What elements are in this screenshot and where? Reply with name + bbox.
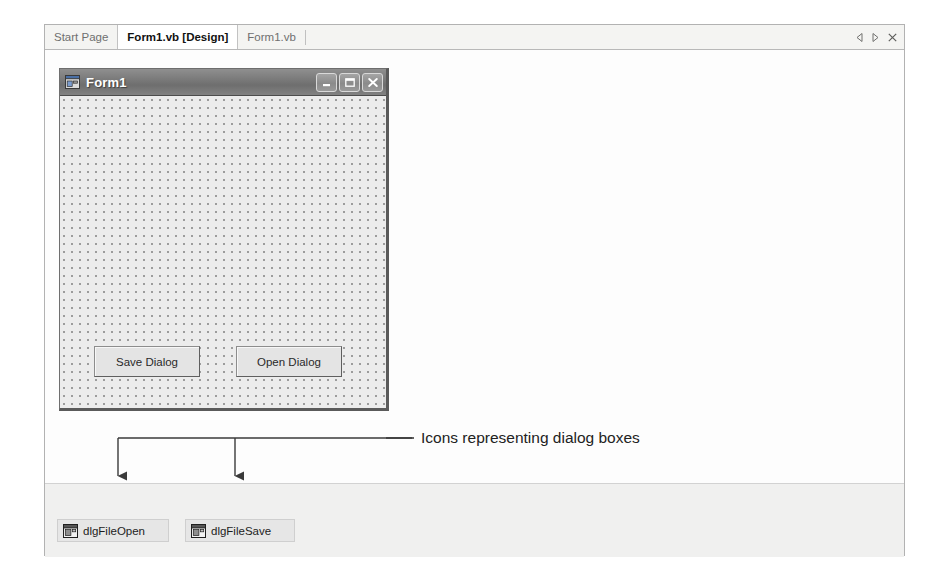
- tab-form1-design-label: Form1.vb [Design]: [127, 31, 228, 43]
- tab-form1-design[interactable]: Form1.vb [Design]: [117, 25, 238, 49]
- tab-strip-divider: [305, 30, 306, 45]
- chevron-left-icon[interactable]: [856, 33, 863, 42]
- tray-item-dlgfilesave-label: dlgFileSave: [211, 525, 271, 537]
- tab-form1-code[interactable]: Form1.vb: [238, 25, 305, 49]
- form-titlebar[interactable]: Form1: [60, 69, 386, 96]
- document-tab-strip: Start Page Form1.vb [Design] Form1.vb: [45, 25, 904, 50]
- tray-item-dlgfileopen[interactable]: dlgFileOpen: [57, 519, 169, 542]
- form-window-icon: [65, 75, 80, 89]
- tab-start-page[interactable]: Start Page: [45, 25, 117, 49]
- open-dialog-button[interactable]: Open Dialog: [236, 346, 342, 377]
- form-maximize-button[interactable]: [339, 73, 360, 92]
- screenshot-root: Start Page Form1.vb [Design] Form1.vb: [0, 0, 943, 582]
- tab-form1-code-label: Form1.vb: [247, 31, 296, 43]
- form-title-label: Form1: [86, 75, 314, 90]
- tab-start-page-label: Start Page: [54, 31, 108, 43]
- form-close-button[interactable]: [362, 73, 383, 92]
- save-dialog-button-label: Save Dialog: [116, 356, 178, 368]
- close-icon[interactable]: [888, 33, 897, 42]
- form-client-area[interactable]: Save Dialog Open Dialog: [60, 96, 386, 408]
- component-tray[interactable]: dlgFileOpen dlgFileSave: [45, 483, 904, 557]
- form-designer-canvas[interactable]: Form1: [45, 50, 904, 555]
- open-dialog-button-label: Open Dialog: [257, 356, 321, 368]
- chevron-right-icon[interactable]: [872, 33, 879, 42]
- dialog-component-icon: [191, 524, 206, 538]
- form-design-window[interactable]: Form1: [59, 68, 389, 411]
- tab-strip-controls: [856, 25, 897, 50]
- dialog-component-icon: [63, 524, 78, 538]
- form-minimize-button[interactable]: [316, 73, 337, 92]
- ide-document-frame: Start Page Form1.vb [Design] Form1.vb: [44, 24, 905, 556]
- tray-item-dlgfileopen-label: dlgFileOpen: [83, 525, 145, 537]
- save-dialog-button[interactable]: Save Dialog: [94, 346, 200, 377]
- tray-item-dlgfilesave[interactable]: dlgFileSave: [185, 519, 295, 542]
